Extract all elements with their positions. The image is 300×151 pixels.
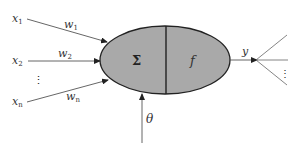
weight-label-w1: w1	[64, 18, 78, 32]
input-label-x2: x2	[12, 54, 23, 68]
input-label-xn: xn	[12, 95, 23, 109]
output-ellipsis: ⋮	[280, 68, 290, 79]
bias-label-theta: θ	[146, 112, 154, 126]
neuron-diagram: x1 w1 x2 w2 ⋮ xn wn Σ f θ y ⋮	[0, 0, 300, 151]
weight-label-w2: w2	[58, 47, 72, 61]
output-label-y: y	[241, 45, 249, 58]
summation-symbol: Σ	[132, 53, 141, 68]
output-branch-top	[256, 35, 287, 60]
weight-label-wn: wn	[66, 90, 80, 104]
neuron-body	[100, 26, 230, 94]
input-ellipsis: ⋮	[33, 74, 44, 87]
neuron-diagram-svg: x1 w1 x2 w2 ⋮ xn wn Σ f θ y ⋮	[0, 0, 300, 151]
input-label-x1: x1	[12, 12, 23, 26]
